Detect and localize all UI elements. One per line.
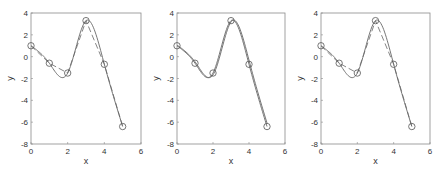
y-tick-label: 0 xyxy=(170,53,175,62)
y-tick-label: -6 xyxy=(311,118,319,127)
chart-svg: 0246420-2-4-6-8xy xyxy=(146,0,292,170)
spline-curve xyxy=(177,20,267,126)
y-tick-label: 0 xyxy=(24,53,29,62)
y-tick-label: 4 xyxy=(170,9,175,18)
y-tick-label: 2 xyxy=(170,31,175,40)
x-tick-label: 0 xyxy=(319,147,324,156)
x-tick-label: 6 xyxy=(139,147,144,156)
x-tick-label: 4 xyxy=(247,147,252,156)
y-axis-label: y xyxy=(295,76,305,81)
x-tick-label: 4 xyxy=(102,147,107,156)
x-tick-label: 2 xyxy=(65,147,70,156)
y-tick-label: -6 xyxy=(167,118,175,127)
data-point-marker xyxy=(264,123,270,129)
y-tick-label: 0 xyxy=(314,53,319,62)
chart-panel-1: 0246420-2-4-6-8xy xyxy=(0,0,146,170)
spline-curve xyxy=(177,20,267,123)
x-tick-label: 0 xyxy=(29,147,34,156)
chart-svg: 0246420-2-4-6-8xy xyxy=(0,0,146,170)
y-tick-label: 4 xyxy=(24,9,29,18)
spline-curve xyxy=(321,20,412,126)
y-axis-label: y xyxy=(151,76,161,81)
chart-panel-2: 0246420-2-4-6-8xy xyxy=(146,0,292,170)
y-axis-label: y xyxy=(5,76,15,81)
spline-curve xyxy=(31,20,123,126)
y-tick-label: -4 xyxy=(311,96,319,105)
linear-interp-line xyxy=(31,21,123,127)
chart-panel-3: 0246420-2-4-6-8xy xyxy=(292,0,438,170)
x-tick-label: 4 xyxy=(391,147,396,156)
x-tick-label: 6 xyxy=(428,147,433,156)
data-point-marker xyxy=(409,123,415,129)
chart-svg: 0246420-2-4-6-8xy xyxy=(292,0,438,170)
x-axis-label: x xyxy=(229,156,234,166)
x-tick-label: 6 xyxy=(283,147,288,156)
linear-interp-line xyxy=(321,21,412,127)
x-tick-label: 2 xyxy=(211,147,216,156)
y-tick-label: -8 xyxy=(167,140,175,149)
y-tick-label: -2 xyxy=(311,75,319,84)
y-tick-label: -4 xyxy=(167,96,175,105)
y-tick-label: -4 xyxy=(21,96,29,105)
y-tick-label: -2 xyxy=(21,75,29,84)
y-tick-label: -8 xyxy=(21,140,29,149)
x-tick-label: 2 xyxy=(355,147,360,156)
x-tick-label: 0 xyxy=(175,147,180,156)
x-axis-label: x xyxy=(84,156,89,166)
y-tick-label: 2 xyxy=(24,31,29,40)
y-tick-label: 4 xyxy=(314,9,319,18)
y-tick-label: -2 xyxy=(167,75,175,84)
y-tick-label: 2 xyxy=(314,31,319,40)
y-tick-label: -6 xyxy=(21,118,29,127)
data-point-marker xyxy=(119,123,125,129)
y-tick-label: -8 xyxy=(311,140,319,149)
x-axis-label: x xyxy=(373,156,378,166)
